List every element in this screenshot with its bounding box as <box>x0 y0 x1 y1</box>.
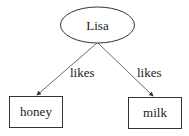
node-honey: honey <box>10 97 63 128</box>
edge-lisa-milk: likes <box>98 43 162 96</box>
edge-lisa-honey: likes <box>37 43 97 95</box>
edge-label-likes-left: likes <box>70 65 95 80</box>
node-lisa-label: Lisa <box>86 18 109 33</box>
node-lisa: Lisa <box>61 7 135 43</box>
edge-label-likes-right: likes <box>137 65 162 80</box>
node-milk: milk <box>129 98 182 129</box>
node-milk-label: milk <box>143 105 167 120</box>
node-honey-label: honey <box>20 104 52 119</box>
diagram-canvas: Lisa likes likes honey milk <box>0 0 189 136</box>
